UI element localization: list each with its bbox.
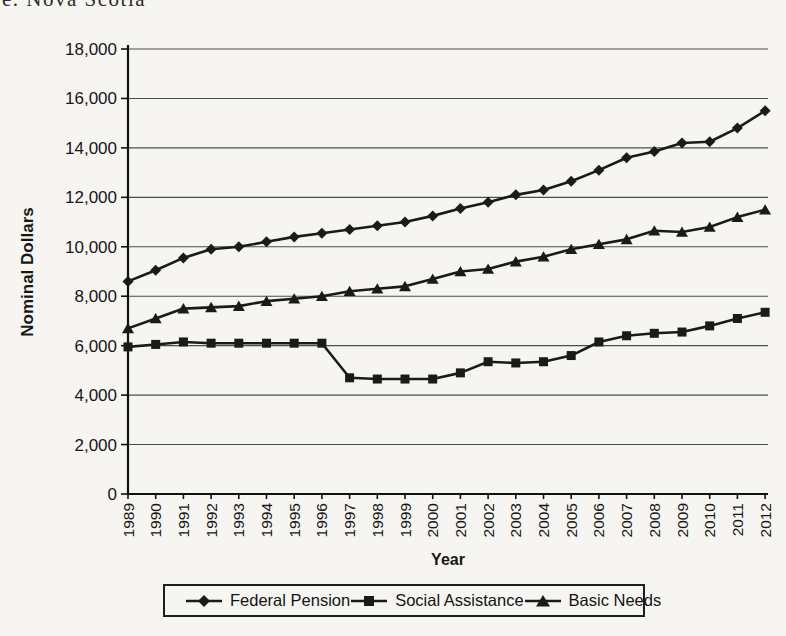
marker-square [262,339,271,348]
marker-diamond [427,210,438,221]
y-tick-label: 12,000 [65,188,117,207]
marker-square [733,314,742,323]
marker-square [622,331,631,340]
marker-diamond [289,231,300,242]
marker-square [179,337,188,346]
marker-diamond [455,203,466,214]
x-tick-label: 2002 [480,503,497,537]
marker-square [594,337,603,346]
x-tick-label: 2009 [674,503,691,537]
y-axis-title: Nominal Dollars [18,202,38,342]
x-tick-label: 1993 [230,503,247,537]
marker-diamond [538,184,549,195]
chart-legend: Federal Pension Social Assistance Basic … [163,584,645,617]
marker-square [705,321,714,330]
legend-item-basic-needs: Basic Needs [524,591,662,610]
x-tick-label: 2001 [452,503,469,537]
x-tick-label: 1994 [258,503,275,538]
triangle-marker-icon [524,594,562,608]
legend-label: Federal Pension [230,591,350,610]
x-tick-label: 1989 [120,503,137,537]
marker-diamond [677,137,688,148]
x-tick-label: 1990 [147,503,164,538]
marker-diamond [344,224,355,235]
x-tick-label: 1991 [175,503,192,537]
marker-diamond [704,136,715,147]
y-tick-label: 10,000 [65,238,117,257]
marker-square [428,375,437,384]
marker-square [678,328,687,337]
x-tick-label: 1992 [203,503,220,537]
x-tick-label: 2005 [563,503,580,537]
y-tick-label: 0 [108,485,117,504]
marker-square [484,357,493,366]
line-chart: 02,0004,0006,0008,00010,00012,00014,0001… [0,0,786,636]
x-tick-label: 2000 [424,503,441,538]
marker-diamond [483,197,494,208]
legend-label: Social Assistance [395,591,523,610]
series-line-basic-needs [128,210,765,329]
x-tick-label: 2010 [701,503,718,538]
x-tick-label: 1995 [286,503,303,537]
legend-item-federal-pension: Federal Pension [185,591,350,610]
marker-diamond [150,265,161,276]
diamond-marker-icon [185,594,223,608]
y-tick-label: 14,000 [65,139,117,158]
x-tick-label: 1996 [313,503,330,537]
x-tick-label: 2007 [618,503,635,537]
legend-label: Basic Needs [569,591,662,610]
marker-diamond [123,276,134,287]
x-tick-label: 2003 [507,503,524,537]
marker-diamond [206,244,217,255]
marker-square [290,339,299,348]
x-tick-label: 1999 [397,503,414,537]
y-tick-label: 8,000 [74,287,117,306]
marker-diamond [510,189,521,200]
marker-square [373,375,382,384]
x-axis-title: Year [128,551,768,569]
y-tick-label: 16,000 [65,89,117,108]
legend-item-social-assistance: Social Assistance [350,591,523,610]
series-line-federal-pension [128,111,765,282]
marker-square [151,340,160,349]
marker-diamond [178,252,189,263]
marker-square [539,357,548,366]
y-tick-label: 4,000 [74,386,117,405]
marker-diamond [400,217,411,228]
marker-square [650,329,659,338]
x-tick-label: 2012 [757,503,774,537]
marker-square [207,339,216,348]
marker-triangle [759,204,771,214]
marker-square [345,373,354,382]
marker-diamond [261,236,272,247]
marker-square [567,351,576,360]
y-tick-label: 6,000 [74,337,117,356]
marker-diamond [566,176,577,187]
x-tick-label: 2006 [590,503,607,537]
marker-diamond [372,220,383,231]
marker-square [401,375,410,384]
x-tick-label: 1998 [369,503,386,537]
x-tick-label: 2011 [729,503,746,536]
marker-square [511,358,520,367]
square-marker-icon [350,594,388,608]
y-tick-label: 2,000 [74,436,117,455]
marker-square [761,308,770,317]
marker-diamond [316,228,327,239]
marker-diamond [593,165,604,176]
x-tick-label: 2008 [646,503,663,537]
marker-square [456,368,465,377]
marker-square [317,339,326,348]
marker-diamond [621,152,632,163]
x-tick-label: 2004 [535,503,552,538]
marker-square [234,339,243,348]
x-tick-label: 1997 [341,503,358,537]
y-tick-label: 18,000 [65,40,117,59]
marker-diamond [233,241,244,252]
marker-square [124,342,133,351]
